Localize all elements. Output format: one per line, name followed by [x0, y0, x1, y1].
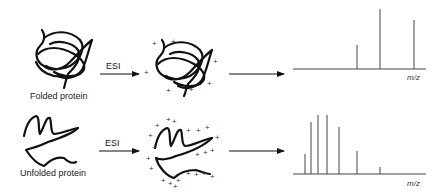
svg-text:+: + — [149, 164, 154, 173]
svg-text:+: + — [210, 172, 215, 181]
svg-text:+: + — [196, 126, 201, 135]
unfolded-protein-icon — [24, 116, 78, 166]
svg-text:+: + — [205, 123, 210, 132]
svg-text:+: + — [213, 57, 218, 66]
svg-text:+: + — [193, 42, 198, 51]
diagram-canvas: Folded protein ESI + + + + + + + + m/z U… — [0, 0, 444, 195]
svg-text:+: + — [166, 115, 171, 124]
svg-text:+: + — [148, 131, 153, 140]
esi-label-folded: ESI — [106, 61, 121, 71]
svg-text:+: + — [172, 117, 177, 126]
svg-text:+: + — [202, 169, 207, 178]
unfolded-protein-label: Unfolded protein — [20, 168, 86, 178]
svg-text:+: + — [186, 126, 191, 135]
svg-text:+: + — [155, 121, 160, 130]
folded-protein-label: Folded protein — [30, 91, 88, 101]
svg-text:+: + — [203, 148, 208, 157]
svg-text:+: + — [210, 146, 215, 155]
esi-label-unfolded: ESI — [105, 138, 120, 148]
svg-text:+: + — [171, 37, 176, 46]
svg-text:+: + — [166, 86, 171, 95]
esi-arrow-folded: ESI — [100, 61, 139, 74]
svg-text:+: + — [152, 143, 157, 152]
spectrum-unfolded — [293, 115, 426, 174]
esi-arrow-unfolded: ESI — [99, 138, 139, 151]
svg-text:+: + — [146, 154, 151, 163]
svg-text:+: + — [189, 85, 194, 94]
svg-text:+: + — [195, 150, 200, 159]
svg-text:+: + — [194, 170, 199, 179]
svg-text:+: + — [152, 39, 157, 48]
svg-text:+: + — [207, 79, 212, 88]
charged-folded-protein-icon — [157, 40, 212, 96]
svg-text:+: + — [144, 68, 149, 77]
svg-text:+: + — [215, 133, 220, 142]
spectrum-folded — [293, 9, 426, 69]
svg-text:+: + — [176, 176, 181, 185]
mz-axis-label-unfolded: m/z — [407, 179, 420, 188]
mz-axis-label-folded: m/z — [407, 73, 420, 82]
folded-protein-icon — [36, 30, 92, 88]
svg-text:+: + — [161, 176, 166, 185]
svg-text:+: + — [186, 169, 191, 178]
